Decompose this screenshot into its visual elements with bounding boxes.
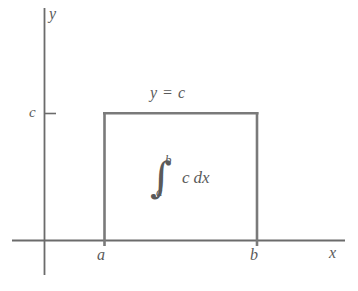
integral-upper-limit: b [165, 153, 172, 166]
line-equation-label: y = c [150, 85, 186, 101]
integral-diagram-figure: y x c a b y = c ∫ b a cdx [0, 0, 358, 291]
integral-symbol-group: ∫ b a [150, 155, 180, 201]
integral-lower-limit: a [156, 185, 163, 198]
y-axis-label: y [49, 6, 56, 22]
integral-differential: dx [194, 168, 210, 187]
x-axis-label: x [329, 245, 336, 261]
x-tick-label-b: b [250, 247, 258, 263]
integral-body: cdx [182, 169, 210, 188]
diagram-canvas [0, 0, 358, 291]
integral-integrand: c [182, 168, 190, 187]
y-tick-label-c: c [29, 105, 36, 120]
integral-expression: ∫ b a cdx [150, 155, 210, 201]
x-tick-label-a: a [97, 247, 105, 263]
